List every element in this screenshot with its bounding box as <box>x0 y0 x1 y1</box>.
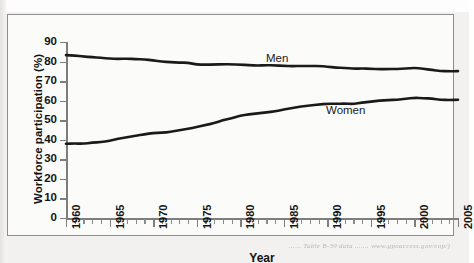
x-tick-minor <box>83 219 84 224</box>
x-tick-major <box>371 219 372 227</box>
x-tick-minor <box>432 219 433 224</box>
x-tick-major <box>240 219 241 227</box>
x-tick-minor <box>353 219 354 224</box>
x-tick-minor <box>144 219 145 224</box>
figure-caption-text: ...... Table B-39 data ....... www.gpoac… <box>7 243 467 250</box>
figure-frame: 0102030405060708090 19601965197019751980… <box>7 14 454 236</box>
x-tick-minor <box>406 219 407 224</box>
figure-caption-strip: ...... Table B-39 data ....... www.gpoac… <box>7 243 467 261</box>
x-tick-minor <box>188 219 189 224</box>
x-tick-major <box>327 219 328 227</box>
series-label-women: Women <box>326 105 365 117</box>
x-tick-minor <box>362 219 363 224</box>
x-tick-major <box>414 219 415 227</box>
x-tick-minor <box>127 219 128 224</box>
x-tick-major <box>284 219 285 227</box>
series-line-women <box>66 98 458 144</box>
x-tick-major <box>110 219 111 227</box>
x-tick-label: 2005 <box>463 205 474 229</box>
x-tick-major <box>197 219 198 227</box>
x-tick-major <box>153 219 154 227</box>
x-tick-major <box>66 219 67 227</box>
x-tick-minor <box>266 219 267 224</box>
x-tick-minor <box>101 219 102 224</box>
page-top-margin <box>0 0 469 12</box>
series-label-men: Men <box>266 53 288 65</box>
x-tick-minor <box>345 219 346 224</box>
page-gutter-shadow <box>0 0 6 263</box>
x-tick-minor <box>441 219 442 224</box>
series-lines <box>66 42 458 219</box>
x-tick-minor <box>232 219 233 224</box>
x-tick-minor <box>258 219 259 224</box>
x-tick-minor <box>275 219 276 224</box>
y-axis-title: Workforce participation (%) <box>32 36 44 222</box>
series-line-men <box>66 55 458 71</box>
x-tick-minor <box>214 219 215 224</box>
x-tick-minor <box>449 219 450 224</box>
x-tick-minor <box>319 219 320 224</box>
x-tick-minor <box>136 219 137 224</box>
x-tick-minor <box>310 219 311 224</box>
x-tick-minor <box>388 219 389 224</box>
x-tick-minor <box>223 219 224 224</box>
x-tick-minor <box>301 219 302 224</box>
x-tick-major <box>458 219 459 227</box>
x-tick-minor <box>92 219 93 224</box>
x-tick-minor <box>179 219 180 224</box>
x-tick-minor <box>397 219 398 224</box>
x-tick-minor <box>171 219 172 224</box>
